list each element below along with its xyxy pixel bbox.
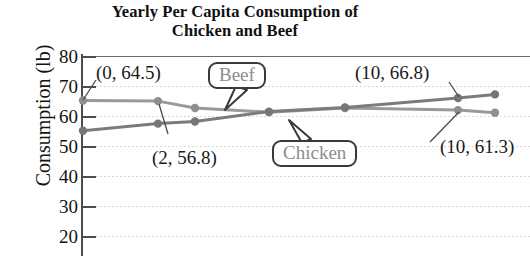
chart-canvas: Yearly Per Capita Consumption of Chicken… xyxy=(0,0,530,256)
series-chicken xyxy=(79,90,499,135)
leader-beef-start xyxy=(83,80,96,100)
plot-area xyxy=(0,0,530,256)
data-point-chicken-4 xyxy=(341,103,349,111)
leader-chicken-2 xyxy=(159,104,168,134)
data-point-chicken-1 xyxy=(154,119,162,127)
annotation-beef-end: (10, 61.3) xyxy=(440,137,514,157)
data-point-beef-2 xyxy=(191,104,199,112)
data-point-chicken-3 xyxy=(265,107,273,115)
annotation-chicken-end: (10, 66.8) xyxy=(355,63,429,83)
data-point-beef-1 xyxy=(154,97,162,105)
data-point-chicken-6 xyxy=(491,90,499,98)
data-point-beef-6 xyxy=(491,109,499,117)
data-point-chicken-0 xyxy=(79,127,87,135)
beef-series-callout: Beef xyxy=(208,62,266,89)
data-point-beef-0 xyxy=(79,96,87,104)
beef-callout-tail xyxy=(225,86,247,110)
leader-chicken-end xyxy=(449,82,459,97)
data-point-chicken-2 xyxy=(191,117,199,125)
annotation-chicken-2: (2, 56.8) xyxy=(152,148,217,168)
annotation-beef-start: (0, 64.5) xyxy=(96,63,161,83)
chicken-series-callout: Chicken xyxy=(272,140,357,167)
